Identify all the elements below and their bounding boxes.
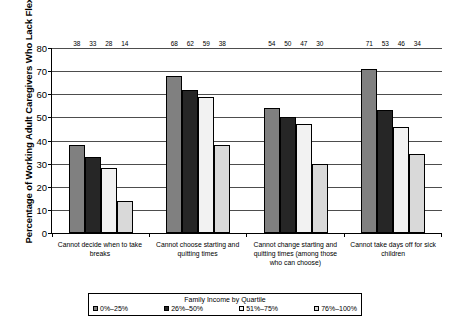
bar-item[interactable]: 33 [85, 48, 101, 233]
bar-value-label: 53 [382, 41, 389, 48]
legend-title: Family Income by Quartile [89, 296, 361, 303]
bar-group-2: 54 50 47 30 [247, 48, 345, 233]
legend-item-1[interactable]: 26%–50% [164, 305, 203, 312]
bar-groups: 38 33 28 14 [52, 48, 442, 233]
bar-1-3[interactable] [214, 145, 230, 233]
bar-group-0: 38 33 28 14 [52, 48, 150, 233]
bar-item[interactable]: 53 [377, 48, 393, 233]
bar-value-label: 38 [219, 41, 226, 48]
bar-item[interactable]: 47 [296, 48, 312, 233]
bar-value-label: 14 [121, 41, 128, 48]
category-label-0: Cannot decide when to take breaks [51, 240, 149, 268]
bar-item[interactable]: 28 [101, 48, 117, 233]
bar-2-2[interactable] [296, 124, 312, 233]
bar-value-label: 71 [366, 41, 373, 48]
bar-1-0[interactable] [166, 76, 182, 233]
x-tick [149, 233, 150, 237]
bar-2-3[interactable] [312, 164, 328, 233]
bar-item[interactable]: 38 [214, 48, 230, 233]
category-label-1: Cannot choose starting and quitting time… [149, 240, 247, 268]
legend-label-1: 26%–50% [171, 305, 203, 312]
bar-0-1[interactable] [85, 157, 101, 233]
x-tick [52, 233, 53, 237]
bar-3-0[interactable] [361, 69, 377, 233]
y-tick-label: 20 [36, 181, 47, 192]
bar-value-label: 62 [187, 41, 194, 48]
bar-item[interactable]: 14 [117, 48, 133, 233]
y-axis-title: Percentage of Working Adult Caregivers W… [23, 4, 34, 244]
y-tick-label: 0 [42, 228, 47, 239]
bar-3-3[interactable] [409, 154, 425, 233]
legend-item-0[interactable]: 0%–25% [93, 305, 128, 312]
x-axis-category-labels: Cannot decide when to take breaks Cannot… [51, 240, 442, 268]
legend-item-3[interactable]: 76%–100% [314, 305, 357, 312]
legend-label-0: 0%–25% [100, 305, 128, 312]
bar-0-0[interactable] [69, 145, 85, 233]
x-tick [246, 233, 247, 237]
y-tick-label: 70 [36, 66, 47, 77]
bar-chart: Percentage of Working Adult Caregivers W… [0, 0, 450, 333]
bar-item[interactable]: 68 [166, 48, 182, 233]
bar-item[interactable]: 54 [264, 48, 280, 233]
y-tick-label: 30 [36, 158, 47, 169]
bar-value-label: 38 [73, 41, 80, 48]
bar-group-3: 71 53 46 34 [345, 48, 443, 233]
bar-item[interactable]: 71 [361, 48, 377, 233]
bar-1-2[interactable] [198, 97, 214, 233]
bar-value-label: 47 [300, 41, 307, 48]
legend-label-3: 76%–100% [321, 305, 357, 312]
bar-item[interactable]: 46 [393, 48, 409, 233]
plot-area: 01020304050607080 38 33 28 [51, 48, 442, 234]
legend-label-2: 51%–75% [246, 305, 278, 312]
bar-value-label: 28 [105, 41, 112, 48]
bar-0-2[interactable] [101, 168, 117, 233]
legend-swatch-icon [314, 306, 319, 311]
y-tick-label: 40 [36, 135, 47, 146]
bar-1-1[interactable] [182, 90, 198, 233]
bar-value-label: 33 [89, 41, 96, 48]
bar-group-1: 68 62 59 38 [150, 48, 248, 233]
bar-0-3[interactable] [117, 201, 133, 233]
bar-3-1[interactable] [377, 110, 393, 233]
bar-item[interactable]: 30 [312, 48, 328, 233]
bar-value-label: 50 [284, 41, 291, 48]
bar-item[interactable]: 38 [69, 48, 85, 233]
bar-value-label: 54 [268, 41, 275, 48]
bar-item[interactable]: 59 [198, 48, 214, 233]
bar-item[interactable]: 34 [409, 48, 425, 233]
bar-value-label: 34 [414, 41, 421, 48]
y-tick-label: 10 [36, 204, 47, 215]
bar-value-label: 59 [203, 41, 210, 48]
category-label-3: Cannot take days off for sick children [344, 240, 442, 268]
bar-value-label: 30 [316, 41, 323, 48]
y-tick-label: 80 [36, 43, 47, 54]
legend-item-2[interactable]: 51%–75% [239, 305, 278, 312]
bar-value-label: 46 [398, 41, 405, 48]
y-tick-label: 60 [36, 89, 47, 100]
y-tick-label: 50 [36, 112, 47, 123]
bar-2-0[interactable] [264, 108, 280, 233]
bar-item[interactable]: 62 [182, 48, 198, 233]
category-label-2: Cannot change starting and quitting time… [247, 240, 345, 268]
bar-2-1[interactable] [280, 117, 296, 233]
bar-item[interactable]: 50 [280, 48, 296, 233]
legend-swatch-icon [164, 306, 169, 311]
bar-3-2[interactable] [393, 127, 409, 233]
bar-value-label: 68 [171, 41, 178, 48]
legend-swatch-icon [93, 306, 98, 311]
legend-swatch-icon [239, 306, 244, 311]
chart-legend: Family Income by Quartile 0%–25% 26%–50%… [88, 293, 362, 316]
x-tick [441, 233, 442, 237]
x-tick [344, 233, 345, 237]
